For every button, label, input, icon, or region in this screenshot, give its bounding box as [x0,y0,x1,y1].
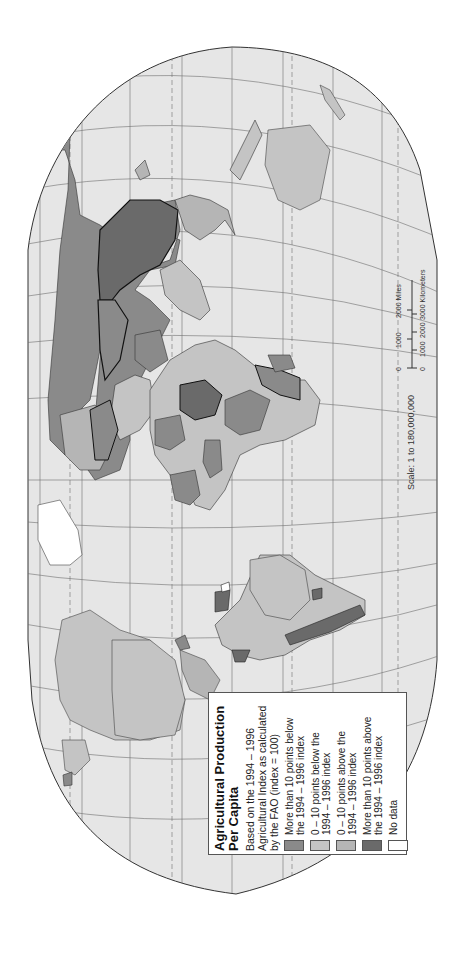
legend-label: 1994 – 1996 index [321,732,332,835]
legend-item-more-above: More than 10 points above the 1994 – 199… [362,698,384,851]
legend-swatch-no-data [388,840,408,851]
legend-label: No data [388,800,399,835]
legend-label: More than 10 points below [284,718,295,835]
scale-km-0: 0 [419,367,426,371]
legend-swatch-more-above [362,840,382,851]
legend-title-line2: Per Capita [227,698,241,851]
legend-swatch-zero-ten-below [310,840,330,851]
legend-label: the 1994 – 1996 index [373,717,384,835]
legend-swatch-zero-ten-above [336,840,356,851]
scale-bar: Scale: 1 to 180,000,000 0 1000 2000 Mile… [392,270,432,490]
legend-subtitle-line1: Based on the 1994 – 1996 [244,698,256,851]
legend-subtitle-line3: by the FAO (index = 100) [268,698,280,851]
scale-miles-0: 0 [395,367,402,371]
scale-label: Scale: 1 to 180,000,000 [406,395,416,490]
legend-subtitle-line2: Agricultural Index as calculated [256,698,268,851]
legend-label: 1994 – 1996 index [347,731,358,835]
legend-swatch-more-below [284,840,304,851]
legend-item-zero-ten-above: 0 – 10 points above the 1994 – 1996 inde… [336,698,358,851]
scale-km-1000: 1000 [419,341,426,357]
legend-label: 0 – 10 points below the [310,732,321,835]
legend-item-zero-ten-below: 0 – 10 points below the 1994 – 1996 inde… [310,698,332,851]
legend-label: the 1994 – 1996 index [295,718,306,835]
legend-item-no-data: No data [388,698,408,851]
scale-miles-1000: 1000 [395,332,402,348]
legend-title-line1: Agricultural Production [213,698,227,851]
scale-km-3000: 3000 Kilometers [419,269,426,320]
legend-item-more-below: More than 10 points below the 1994 – 199… [284,698,306,851]
region-guiana [312,588,322,600]
scale-km-2000: 2000 [419,322,426,338]
scale-miles-2000: 2000 Miles [395,284,402,318]
legend: Agricultural Production Per Capita Based… [208,692,407,855]
region-venezuela [215,590,230,612]
legend-label: More than 10 points above [362,717,373,835]
legend-label: 0 – 10 points above the [336,731,347,835]
